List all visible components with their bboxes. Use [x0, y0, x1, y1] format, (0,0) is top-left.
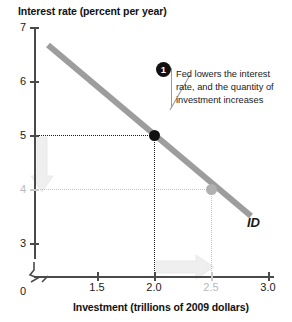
callout-leader-line [0, 0, 292, 322]
callout-text: Fed lowers the interest rate, and the qu… [171, 68, 282, 108]
callout-badge-1: 1 [156, 62, 171, 77]
chart-canvas: Interest rate (percent per year) Investm… [0, 0, 292, 322]
